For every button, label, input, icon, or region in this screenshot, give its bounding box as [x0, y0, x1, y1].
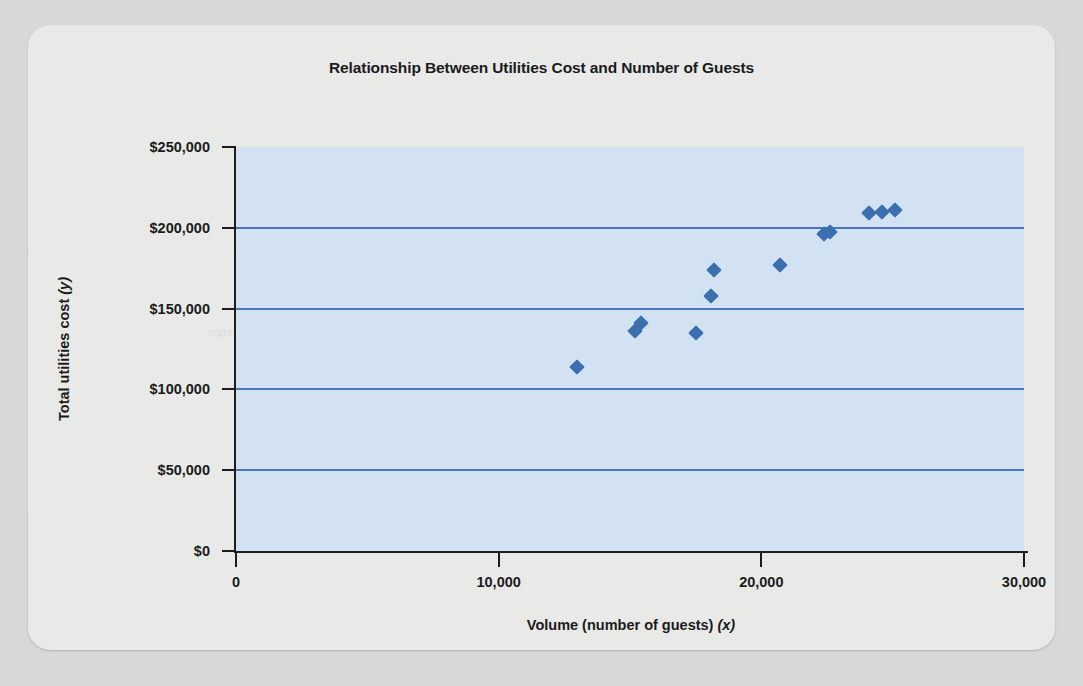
x-axis-title: Volume (number of guests) (x)	[234, 617, 1028, 633]
gridline	[236, 469, 1024, 471]
y-axis-tick	[222, 388, 236, 390]
x-axis-tick	[498, 553, 500, 567]
y-axis-tick	[222, 469, 236, 471]
x-axis-line	[234, 551, 1028, 553]
scatter-point	[688, 325, 704, 341]
scatter-point	[706, 262, 722, 278]
x-axis-tick-label: 10,000	[476, 574, 520, 590]
gridline	[236, 308, 1024, 310]
plot-area	[236, 147, 1024, 551]
chart-title: Relationship Between Utilities Cost and …	[28, 59, 1055, 77]
y-axis-tick-label: $200,000	[106, 220, 210, 236]
figure-card: the cost of the facility and the number …	[28, 25, 1055, 650]
scatter-point	[570, 359, 586, 375]
scatter-point	[888, 202, 904, 218]
y-axis-tick-label: $250,000	[106, 139, 210, 155]
gridline	[236, 227, 1024, 229]
x-axis-tick	[1023, 553, 1025, 567]
x-axis-variable: (x)	[717, 617, 735, 633]
scatter-point	[874, 204, 890, 220]
x-axis-tick-label: 20,000	[739, 574, 783, 590]
y-axis-variable: (y)	[56, 277, 72, 295]
x-axis-tick-label: 0	[232, 574, 240, 590]
y-axis-tick	[222, 308, 236, 310]
gridline	[236, 388, 1024, 390]
y-axis-tick-label: $50,000	[106, 462, 210, 478]
x-axis-tick-label: 30,000	[1002, 574, 1046, 590]
scatter-point	[772, 257, 788, 273]
x-axis-tick	[235, 553, 237, 567]
x-axis-tick	[760, 553, 762, 567]
y-axis-tick	[222, 550, 236, 552]
y-axis-tick-label: $0	[106, 543, 210, 559]
y-axis-title: Total utilities cost (y)	[56, 277, 72, 421]
y-axis-tick-label: $150,000	[106, 301, 210, 317]
y-axis-line	[234, 147, 236, 553]
scatter-point	[704, 288, 720, 304]
y-axis-tick	[222, 146, 236, 148]
scatter-point	[861, 205, 877, 221]
y-axis-tick-label: $100,000	[106, 381, 210, 397]
y-axis-tick	[222, 227, 236, 229]
